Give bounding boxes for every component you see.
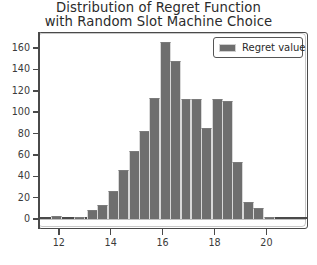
x-axis-tick bbox=[58, 229, 60, 235]
bar bbox=[149, 98, 160, 219]
y-axis-label: 20 bbox=[4, 192, 30, 203]
x-axis-label: 20 bbox=[260, 237, 272, 248]
legend: Regret value bbox=[213, 37, 303, 58]
y-axis-tick bbox=[33, 133, 39, 135]
y-axis-label: 60 bbox=[4, 149, 30, 160]
y-axis-label: 140 bbox=[4, 63, 30, 74]
chart-title-line-1: Distribution of Regret Function bbox=[0, 1, 317, 15]
x-axis-tick bbox=[214, 229, 216, 235]
y-axis-tick bbox=[33, 154, 39, 156]
y-axis-tick bbox=[33, 69, 39, 71]
y-axis-tick bbox=[33, 90, 39, 92]
x-axis-label: 16 bbox=[157, 237, 169, 248]
y-axis-label: 0 bbox=[4, 213, 30, 224]
bar bbox=[108, 191, 119, 219]
bar bbox=[201, 128, 212, 219]
bar bbox=[264, 217, 275, 219]
x-axis-label: 14 bbox=[105, 237, 117, 248]
bar bbox=[181, 99, 192, 219]
bar bbox=[222, 101, 233, 219]
x-axis-tick bbox=[162, 229, 164, 235]
bar bbox=[74, 217, 85, 219]
bar bbox=[87, 210, 98, 219]
bar bbox=[170, 61, 181, 219]
y-axis-tick bbox=[33, 218, 39, 220]
y-axis-label: 80 bbox=[4, 128, 30, 139]
y-axis-label: 120 bbox=[4, 85, 30, 96]
bar bbox=[139, 131, 150, 219]
y-axis-tick bbox=[33, 111, 39, 113]
bar bbox=[191, 99, 202, 219]
bar bbox=[232, 162, 243, 219]
bar bbox=[253, 208, 264, 219]
x-axis-label: 18 bbox=[208, 237, 220, 248]
legend-label-regret-value: Regret value bbox=[242, 42, 305, 53]
x-axis-label: 12 bbox=[53, 237, 65, 248]
y-axis-label: 160 bbox=[4, 42, 30, 53]
y-axis-label: 40 bbox=[4, 170, 30, 181]
bar bbox=[129, 151, 140, 219]
bar bbox=[212, 99, 223, 219]
legend-swatch-regret-value bbox=[219, 44, 236, 52]
bar bbox=[160, 42, 171, 219]
y-axis-tick bbox=[33, 176, 39, 178]
chart-title: Distribution of Regret Function with Ran… bbox=[0, 1, 317, 29]
y-axis-tick bbox=[33, 197, 39, 199]
x-axis-tick bbox=[266, 229, 268, 235]
bar bbox=[97, 205, 108, 219]
bar bbox=[118, 170, 129, 219]
chart-title-line-2: with Random Slot Machine Choice bbox=[0, 15, 317, 29]
y-axis-label: 100 bbox=[4, 106, 30, 117]
x-axis-tick bbox=[110, 229, 112, 235]
plot-data-area bbox=[38, 32, 308, 229]
y-axis-tick bbox=[33, 47, 39, 49]
chart-container: Distribution of Regret Function with Ran… bbox=[0, 0, 317, 265]
bar bbox=[51, 216, 62, 219]
bar bbox=[243, 202, 254, 219]
